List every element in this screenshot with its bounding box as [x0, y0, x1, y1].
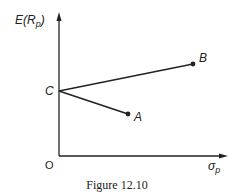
- point-b-marker: [191, 62, 196, 67]
- line-c-a: [59, 91, 128, 114]
- figure-caption: Figure 12.10: [0, 178, 234, 193]
- line-c-b: [59, 64, 193, 91]
- y-axis-arrow-icon: [57, 12, 62, 21]
- x-axis-label: σp: [208, 160, 220, 175]
- point-c-label: C: [45, 85, 54, 97]
- point-a-marker: [126, 112, 131, 117]
- x-axis-arrow-icon: [219, 154, 228, 159]
- diagram-canvas: [0, 0, 234, 196]
- y-axis-label: E(Rp): [15, 14, 45, 29]
- origin-label: O: [45, 160, 54, 171]
- point-a-label: A: [134, 111, 142, 123]
- figure: E(Rp) C A B O σp Figure 12.10: [0, 0, 234, 196]
- point-b-label: B: [199, 52, 207, 64]
